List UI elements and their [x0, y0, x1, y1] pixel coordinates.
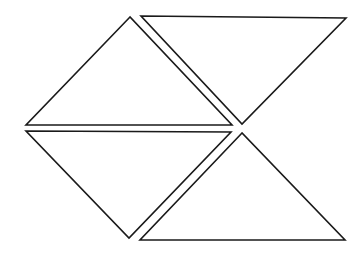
triangles-diagram [0, 0, 363, 258]
